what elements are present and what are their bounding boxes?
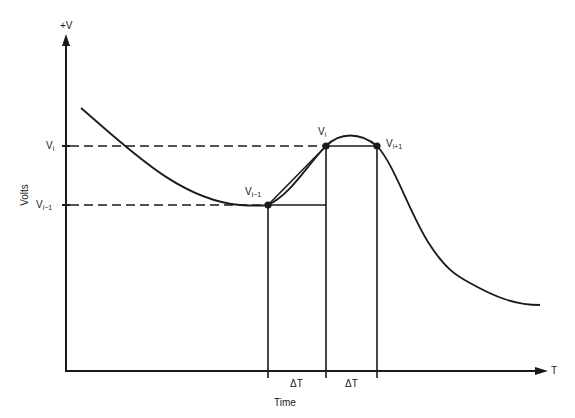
- point-label-vi-minus-1-sub: i−1: [252, 191, 262, 198]
- level-label-vi-minus-1-sub: i−1: [43, 204, 53, 211]
- point-label-vi-minus-1: Vi−1: [245, 187, 261, 198]
- y-axis-top-label: +V: [60, 21, 73, 31]
- y-axis-arrow-icon: [62, 34, 70, 46]
- point-vi: [322, 142, 329, 149]
- point-label-vi: Vi: [318, 127, 326, 138]
- point-vi-plus-1: [373, 142, 380, 149]
- point-label-vi-plus-1-name: V: [386, 138, 393, 149]
- level-label-vi: Vi: [46, 141, 54, 152]
- level-label-vi-sub: i: [53, 145, 55, 152]
- x-axis-end-label: T: [551, 366, 557, 376]
- point-label-vi-name: V: [318, 126, 325, 137]
- level-label-vi-name: V: [46, 140, 53, 151]
- interval-label-1: ΔT: [290, 379, 303, 389]
- level-label-vi-minus-1-name: V: [36, 199, 43, 210]
- voltage-curve: [81, 108, 540, 305]
- interval-label-2: ΔT: [345, 379, 358, 389]
- point-label-vi-minus-1-name: V: [245, 186, 252, 197]
- point-label-vi-sub: i: [325, 131, 327, 138]
- level-label-vi-minus-1: Vi−1: [36, 200, 52, 211]
- point-label-vi-plus-1-sub: i+1: [393, 143, 403, 150]
- x-axis-arrow-icon: [535, 367, 548, 375]
- point-label-vi-plus-1: Vi+1: [386, 139, 402, 150]
- point-vi-minus-1: [264, 201, 271, 208]
- voltage-diagram: [0, 0, 575, 418]
- y-axis-label: Volts: [20, 184, 30, 206]
- x-axis-label: Time: [274, 398, 296, 408]
